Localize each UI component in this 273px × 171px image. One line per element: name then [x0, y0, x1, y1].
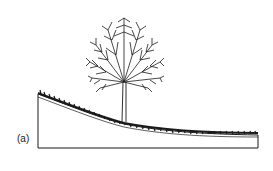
tree-trunk — [122, 82, 126, 122]
tree-crown — [86, 18, 164, 92]
ground-block — [38, 94, 258, 148]
grass-texture — [38, 90, 258, 134]
tree — [86, 18, 164, 122]
figure-canvas: (a) — [0, 0, 273, 171]
slope-tree-diagram — [0, 0, 273, 171]
